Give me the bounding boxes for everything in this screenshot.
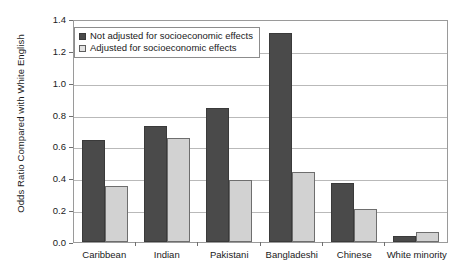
y-axis-tick-marks — [0, 0, 73, 277]
x-axis-tick-labels: CaribbeanIndianPakistaniBangladeshiChine… — [73, 248, 448, 264]
x-tick-mark — [322, 242, 323, 246]
bar — [331, 183, 354, 242]
y-tick-mark — [69, 243, 73, 244]
bar-group — [385, 21, 447, 242]
legend-label: Adjusted for socioeconomic effects — [90, 42, 237, 54]
bar — [393, 236, 416, 242]
bar — [269, 33, 292, 242]
bar — [229, 180, 252, 242]
x-tick-label: Bangladeshi — [261, 248, 324, 264]
x-tick-label: Pakistani — [198, 248, 261, 264]
x-tick-label: Caribbean — [73, 248, 136, 264]
bar — [105, 186, 128, 242]
bar — [167, 138, 190, 242]
legend-item: Adjusted for socioeconomic effects — [79, 42, 253, 54]
chart-legend: Not adjusted for socioeconomic effectsAd… — [74, 27, 260, 58]
bar-chart: Odds Ratio Compared with White English 1… — [0, 0, 467, 277]
bar — [416, 232, 439, 242]
bar-group — [261, 21, 323, 242]
bar — [144, 126, 167, 242]
x-tick-mark — [135, 242, 136, 246]
legend-swatch-icon — [79, 45, 86, 52]
x-tick-mark — [197, 242, 198, 246]
legend-label: Not adjusted for socioeconomic effects — [90, 30, 253, 42]
bar-group — [323, 21, 385, 242]
bar — [354, 209, 377, 242]
x-tick-mark — [260, 242, 261, 246]
legend-swatch-icon — [79, 33, 86, 40]
x-tick-label: Chinese — [323, 248, 386, 264]
legend-item: Not adjusted for socioeconomic effects — [79, 30, 253, 42]
x-tick-label: Indian — [136, 248, 199, 264]
bar — [206, 108, 229, 242]
x-tick-label: White minority — [386, 248, 449, 264]
bar — [82, 140, 105, 242]
bar — [292, 172, 315, 242]
x-tick-mark — [384, 242, 385, 246]
